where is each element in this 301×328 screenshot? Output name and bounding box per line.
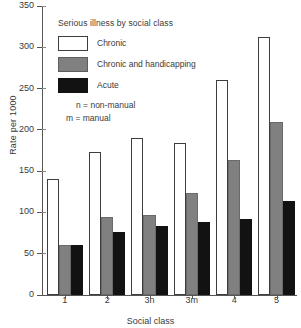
y-tick-0: 0 xyxy=(0,295,42,296)
bar-acute-3n xyxy=(156,226,168,295)
y-tick-label: 250 xyxy=(19,83,34,94)
legend-item-acute: Acute xyxy=(58,76,196,94)
x-axis-title: Social class xyxy=(0,316,301,326)
bar-acute-3m xyxy=(198,222,210,295)
legend-note: n = non-manual xyxy=(66,99,196,112)
x-tick-mark-1 xyxy=(65,295,66,299)
bar-chronic-3m xyxy=(174,143,186,295)
bar-handicap-1 xyxy=(59,245,71,295)
bar-group xyxy=(258,6,295,295)
bar-acute-4 xyxy=(240,219,252,295)
x-tick-mark-5 xyxy=(277,295,278,299)
legend-item-label: Chronic xyxy=(97,38,126,48)
y-tick-350: 350 xyxy=(0,6,42,7)
y-tick-100: 100 xyxy=(0,212,42,213)
y-tick-250: 250 xyxy=(0,89,42,90)
bar-chronic-4 xyxy=(216,80,228,296)
y-tick-label: 300 xyxy=(19,41,34,52)
x-axis-line xyxy=(42,295,297,296)
legend-swatch-chronic xyxy=(58,36,88,51)
bar-chart: Rate per 1000 050100150200250300350 123n… xyxy=(0,0,301,328)
y-tick-label: 100 xyxy=(19,206,34,217)
legend-item-handicap: Chronic and handicapping xyxy=(58,55,196,73)
bar-handicap-5 xyxy=(270,122,282,295)
y-tick-mark xyxy=(37,295,42,296)
legend-item-label: Chronic and handicapping xyxy=(97,59,196,69)
bar-acute-2 xyxy=(113,232,125,295)
x-tick-mark-4 xyxy=(234,295,235,299)
legend: Serious illness by social class ChronicC… xyxy=(58,18,196,125)
legend-note: m = manual xyxy=(66,112,196,125)
bar-handicap-3m xyxy=(186,193,198,295)
y-tick-50: 50 xyxy=(0,254,42,255)
y-axis-title: Rate per 1000 xyxy=(8,80,18,170)
x-tick-mark-3n xyxy=(150,295,151,299)
bar-chronic-2 xyxy=(89,152,101,295)
y-tick-label: 350 xyxy=(19,0,34,11)
bar-handicap-4 xyxy=(228,160,240,295)
bar-acute-5 xyxy=(283,201,295,295)
legend-item-chronic: Chronic xyxy=(58,34,196,52)
bar-chronic-5 xyxy=(258,37,270,295)
bar-acute-1 xyxy=(71,245,83,295)
y-tick-label: 50 xyxy=(24,248,34,259)
y-tick-200: 200 xyxy=(0,130,42,131)
y-tick-label: 150 xyxy=(19,165,34,176)
legend-title: Serious illness by social class xyxy=(58,18,196,28)
legend-item-label: Acute xyxy=(97,80,119,90)
legend-swatch-acute xyxy=(58,78,88,93)
bar-group xyxy=(216,6,253,295)
legend-swatch-handicap xyxy=(58,57,88,72)
bar-handicap-3n xyxy=(143,215,155,295)
bar-chronic-1 xyxy=(47,179,59,295)
y-tick-300: 300 xyxy=(0,47,42,48)
bar-chronic-3n xyxy=(131,138,143,295)
y-tick-150: 150 xyxy=(0,171,42,172)
bar-handicap-2 xyxy=(101,217,113,295)
legend-notes: n = non-manualm = manual xyxy=(58,99,196,125)
y-tick-label: 200 xyxy=(19,124,34,135)
x-tick-mark-2 xyxy=(107,295,108,299)
y-tick-label: 0 xyxy=(29,289,34,300)
x-tick-mark-3m xyxy=(192,295,193,299)
